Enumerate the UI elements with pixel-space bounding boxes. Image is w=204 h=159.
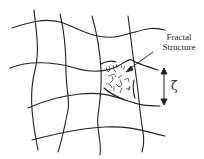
- fractal-structure-label: Fractal Structure: [160, 32, 198, 52]
- length-scale-arrow: [161, 68, 167, 105]
- label-line-1: Fractal: [160, 32, 198, 42]
- network-diagram: Fractal Structure ζ: [0, 0, 204, 159]
- pointer-arrow: [126, 52, 153, 72]
- label-line-2: Structure: [160, 42, 198, 52]
- zeta-symbol: ζ: [171, 79, 178, 93]
- fractal-structure: [106, 64, 130, 93]
